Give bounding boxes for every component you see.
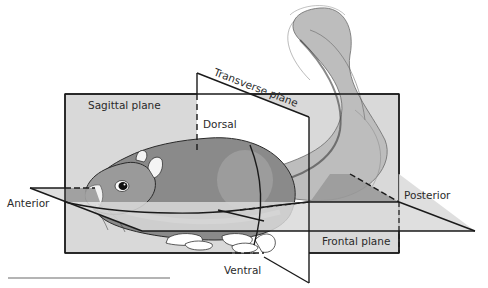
label-sagittal-plane: Sagittal plane	[88, 99, 161, 111]
label-anterior: Anterior	[7, 197, 50, 209]
label-frontal-plane: Frontal plane	[322, 235, 390, 247]
label-posterior: Posterior	[404, 189, 451, 201]
label-ventral: Ventral	[224, 264, 261, 276]
anatomical-planes-diagram: Sagittal plane Dorsal Transverse plane A…	[0, 0, 488, 288]
label-dorsal: Dorsal	[203, 118, 237, 130]
